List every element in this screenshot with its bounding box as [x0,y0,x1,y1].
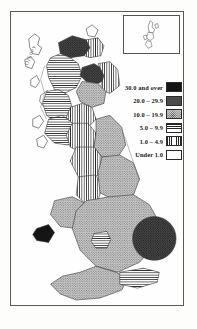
region-hebrides-south [31,76,40,88]
legend-label-1: 20.0 – 29.9 [133,97,166,104]
figure-container: Orkney 30.0 and over 20.0 – 29.9 [0,0,197,329]
legend-label-3: 5.0 – 9.9 [140,124,166,131]
inset-shetland-north [148,21,155,33]
legend-swatch-2 [166,109,182,119]
legend-swatch-1 [166,96,182,106]
legend-row-5: Under 1.0 [114,149,182,161]
shetland-inset-box [123,15,180,54]
shetland-inset-svg [124,16,179,53]
region-central-enclave [91,232,111,249]
region-highland-west [47,54,83,94]
legend-row-3: 5.0 – 9.9 [114,122,182,134]
legend-label-5: Under 1.0 [135,151,166,158]
legend-label-2: 10.0 – 19.9 [133,111,166,118]
legend: 30.0 and over 20.0 – 29.9 10.0 – 19.9 5.… [114,81,182,162]
legend-label-4: 1.0 – 4.9 [140,138,166,145]
inset-shetland-mid [146,32,154,41]
legend-row-2: 10.0 – 19.9 [114,108,182,120]
legend-row-0: 30.0 and over [114,81,182,93]
region-east-anglia [133,217,176,261]
region-south-wales-tip [33,225,55,243]
region-south-east-coast [120,268,160,288]
legend-swatch-0 [166,82,182,92]
legend-row-1: 20.0 – 29.9 [114,95,182,107]
legend-swatch-3 [166,123,182,133]
region-island-islay [37,135,48,148]
region-island-mull [33,115,44,128]
inset-shetland-islet-b [143,35,147,40]
inset-shetland-islet-a [155,24,159,29]
legend-swatch-4 [166,136,182,146]
inset-shetland-south [145,41,152,49]
legend-row-4: 1.0 – 4.9 [114,135,182,147]
region-orkney-isles [86,25,98,37]
map-frame: Orkney 30.0 and over 20.0 – 29.9 [10,11,184,306]
legend-label-0: 30.0 and over [125,84,166,91]
legend-swatch-5 [166,150,182,160]
